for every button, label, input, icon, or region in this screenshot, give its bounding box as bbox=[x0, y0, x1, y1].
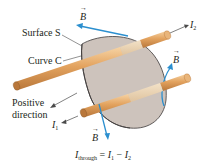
surface-s-label: Surface S bbox=[22, 28, 61, 38]
positive-direction-arrow bbox=[50, 93, 77, 108]
b-field-label-bottom: B bbox=[92, 133, 98, 143]
direction-text: direction bbox=[12, 109, 48, 121]
b-vector-text: B bbox=[92, 133, 98, 143]
eq-equals: = bbox=[97, 149, 108, 160]
b-field-label-right: B bbox=[173, 55, 179, 65]
b-field-label-top: B bbox=[80, 12, 86, 22]
b-field-arrow-top bbox=[76, 23, 128, 36]
equation-label: Ithrough = I1 − I2 bbox=[75, 150, 131, 161]
current-i2-arrow bbox=[170, 25, 189, 34]
curve-leader-line bbox=[63, 56, 81, 61]
ampere-law-diagram bbox=[0, 0, 210, 165]
eq-i2-subscript: 2 bbox=[128, 155, 131, 161]
i1-subscript: 1 bbox=[55, 125, 58, 131]
current-i2-label: I2 bbox=[190, 20, 196, 31]
i2-subscript: 2 bbox=[193, 25, 196, 31]
curve-c-label: Curve C bbox=[28, 56, 62, 66]
b-vector-text: B bbox=[173, 55, 179, 65]
eq-minus: − bbox=[114, 149, 125, 160]
surface-s-text: Surface S bbox=[22, 27, 61, 38]
current-i1-label: I1 bbox=[52, 120, 58, 131]
eq-through-subscript: through bbox=[78, 155, 97, 161]
current-i1-arrow bbox=[61, 116, 78, 124]
curve-c-text: Curve C bbox=[28, 55, 62, 66]
positive-text: Positive bbox=[12, 97, 48, 109]
positive-direction-label: Positive direction bbox=[12, 97, 48, 121]
surface-leader-line bbox=[62, 35, 82, 46]
b-vector-text: B bbox=[80, 12, 86, 22]
